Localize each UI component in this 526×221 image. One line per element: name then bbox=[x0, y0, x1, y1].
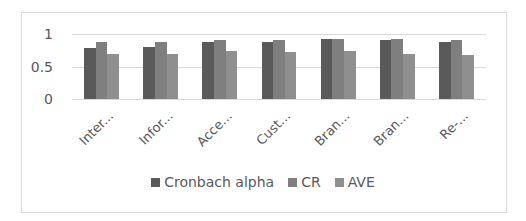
legend: Cronbach alpha CR AVE bbox=[0, 174, 526, 190]
y-tick-label: 0 bbox=[0, 91, 53, 107]
bar-ave bbox=[462, 55, 474, 99]
gridline bbox=[72, 99, 486, 100]
legend-label: AVE bbox=[348, 174, 375, 190]
bar-cr bbox=[451, 40, 463, 99]
bar-cronbach-alpha bbox=[321, 39, 333, 99]
legend-label: CR bbox=[301, 174, 321, 190]
legend-item-cr: CR bbox=[288, 174, 321, 190]
bar-cr bbox=[155, 42, 167, 99]
bar-cronbach-alpha bbox=[84, 48, 96, 99]
plot-area bbox=[72, 34, 486, 99]
bar-ave bbox=[226, 51, 238, 99]
bar-cr bbox=[273, 40, 285, 99]
bar-ave bbox=[167, 54, 179, 100]
bar-cronbach-alpha bbox=[439, 42, 451, 99]
bar-cronbach-alpha bbox=[380, 40, 392, 99]
bar-cr bbox=[391, 39, 403, 99]
y-tick-label: 0.5 bbox=[0, 59, 53, 75]
bar-cronbach-alpha bbox=[143, 47, 155, 99]
y-tick-label: 1 bbox=[0, 26, 53, 42]
bar-ave bbox=[403, 54, 415, 99]
bar-ave bbox=[285, 52, 297, 99]
legend-swatch-icon bbox=[151, 178, 160, 187]
legend-swatch-icon bbox=[288, 178, 297, 187]
bar-cronbach-alpha bbox=[262, 42, 274, 99]
bar-ave bbox=[107, 54, 119, 100]
bar-ave bbox=[344, 51, 356, 99]
legend-item-ave: AVE bbox=[335, 174, 375, 190]
gridline bbox=[72, 34, 486, 35]
legend-label: Cronbach alpha bbox=[164, 174, 274, 190]
bar-cr bbox=[332, 39, 344, 99]
bar-cronbach-alpha bbox=[202, 42, 214, 99]
legend-swatch-icon bbox=[335, 178, 344, 187]
bar-cr bbox=[96, 42, 108, 99]
bar-cr bbox=[214, 40, 226, 99]
legend-item-cronbach-alpha: Cronbach alpha bbox=[151, 174, 274, 190]
